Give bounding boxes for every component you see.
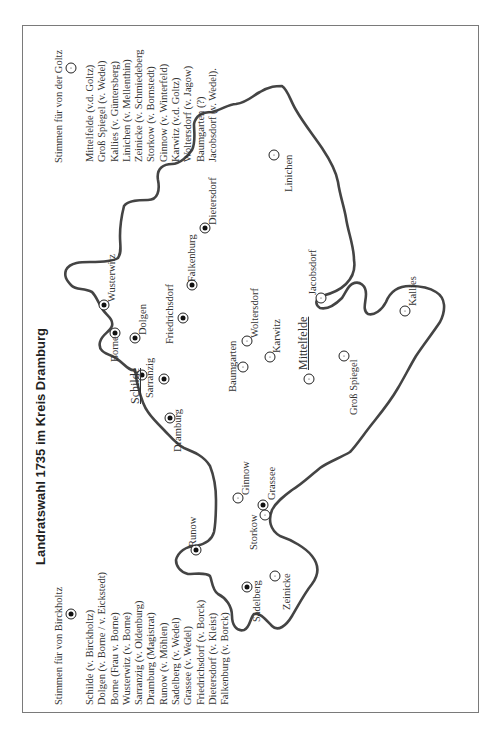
marker-baumgarten-icon bbox=[238, 362, 249, 373]
place-label-zeinicke: Zeinicke bbox=[281, 573, 292, 610]
legend-item: Borne (Frau v. Borne) bbox=[109, 572, 121, 705]
place-label-dietersdorf: Dietersdorf bbox=[207, 177, 218, 225]
legend-item: Linichen (v. Mellenthin) bbox=[121, 49, 133, 162]
place-label-borne: Borne bbox=[109, 336, 120, 362]
marker-linichen-icon bbox=[269, 150, 280, 161]
place-label-woltersdorf: Woltersdorf bbox=[249, 288, 260, 338]
marker-kallies-icon bbox=[400, 306, 411, 317]
place-label-mittelfelde: Mittelfelde bbox=[296, 317, 311, 370]
legend-item: Mittelfelde (v.d. Goltz) bbox=[84, 49, 96, 162]
marker-mittelfelde-icon bbox=[304, 374, 315, 385]
marker-storkow-icon bbox=[260, 510, 271, 521]
legend-item: Dietersdorf (v. Kleist) bbox=[207, 572, 219, 705]
place-label-friedrichsdorf: Friedrichsdorf bbox=[164, 284, 175, 344]
marker-friedrichsdorf-icon bbox=[178, 313, 189, 324]
legend-item: Groß Spiegel (v. Wedel) bbox=[96, 49, 108, 162]
marker-karwitz-icon bbox=[265, 352, 276, 363]
legend-item: Wusterwitz (v. Borne) bbox=[121, 572, 133, 705]
place-label-gross-spiegel: Groß Spiegel bbox=[348, 359, 359, 415]
legend-item: Ginnow (v. Winterfeld) bbox=[158, 49, 170, 162]
legend-item: Baumgarten (?) bbox=[195, 49, 207, 162]
place-label-wusterwitz: Wusterwitz bbox=[106, 254, 117, 302]
legend-item: Karwitz (v.d. Goltz) bbox=[170, 49, 182, 162]
legend-goltz-marker-icon bbox=[66, 63, 77, 74]
legend-goltz-list: Mittelfelde (v.d. Goltz) Groß Spiegel (v… bbox=[84, 49, 219, 162]
place-label-sadelberg: Sadelberg bbox=[251, 580, 262, 622]
legend-item: Runow (v. Möhlen) bbox=[158, 572, 170, 705]
legend-item: Storkow (v. Bornstedt) bbox=[145, 49, 157, 162]
legend-goltz-heading: Stimmen für von der Goltz bbox=[53, 50, 64, 163]
place-label-falkenburg: Falkenburg bbox=[186, 234, 197, 282]
place-label-dolgen: Dolgen bbox=[137, 304, 148, 335]
legend-birckholtz-list: Schilde (v. Birckholtz) Dolgen (v. Borne… bbox=[84, 572, 232, 705]
map-title: Landratswahl 1735 im Kreis Dramburg bbox=[33, 328, 48, 565]
place-label-storkow: Storkow bbox=[248, 514, 259, 550]
legend-birckholtz-heading: Stimmen für von Birckholtz bbox=[53, 587, 64, 705]
place-label-jacobsdorf: Jacobsdorf bbox=[307, 250, 318, 296]
marker-sarranzig-icon bbox=[159, 374, 170, 385]
place-label-dramburg: Dramburg bbox=[172, 409, 183, 452]
marker-zeinicke-icon bbox=[270, 571, 281, 582]
legend-item: Grassee (v. Wedel) bbox=[182, 572, 194, 705]
place-label-grassee: Grassee bbox=[266, 467, 277, 500]
place-label-ginnow: Ginnow bbox=[240, 461, 251, 495]
place-label-linichen: Linichen bbox=[283, 155, 294, 192]
legend-item: Falkenburg (v. Borck) bbox=[219, 572, 231, 705]
place-label-kallies: Kallies bbox=[407, 276, 418, 306]
legend-item: Jacobsdorf (v. Wedel). bbox=[207, 49, 219, 162]
place-label-karwitz: Karwitz bbox=[271, 319, 282, 353]
legend-item: Dramburg (Magistrat) bbox=[145, 572, 157, 705]
district-boundary bbox=[0, 0, 499, 730]
legend-item: Sadelberg (v. Wedel) bbox=[170, 572, 182, 705]
legend-item: Friedrichsdorf (v. Borck) bbox=[195, 572, 207, 705]
legend-birckholtz-marker-icon bbox=[66, 609, 77, 620]
legend-item: Dolgen (v. Borne / v. Eickstedt) bbox=[96, 572, 108, 705]
place-label-baumgarten: Baumgarten bbox=[227, 341, 238, 392]
place-label-runow: Runow bbox=[187, 517, 198, 547]
place-label-schilde: Schilde bbox=[128, 368, 143, 404]
place-label-sarranzig: Sarranzig bbox=[144, 358, 155, 398]
legend-item: Sarranzig (v. Oldenburg) bbox=[133, 572, 145, 705]
legend-item: Kallies (v. Güntersberg) bbox=[109, 49, 121, 162]
legend-item: Schilde (v. Birckholtz) bbox=[84, 572, 96, 705]
legend-item: Zeinicke (v. Schmiedeberg bbox=[133, 49, 145, 162]
legend-item: Woltersdorf (v. Jagow) bbox=[182, 49, 194, 162]
